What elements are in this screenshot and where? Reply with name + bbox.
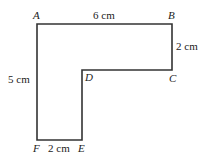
vertex-label-f: F [32,142,40,154]
vertex-label-d: D [84,71,93,83]
l-shape-diagram: A B C D E F 6 cm 2 cm 5 cm 2 cm [0,0,210,158]
vertex-label-c: C [169,72,177,84]
vertex-label-a: A [32,9,40,21]
measurement-bc: 2 cm [176,40,198,52]
l-shape-outline [37,24,172,140]
measurement-ab: 6 cm [93,9,115,21]
measurement-fe: 2 cm [48,142,70,154]
measurement-af: 5 cm [8,73,30,85]
vertex-label-e: E [77,142,85,154]
vertex-label-b: B [168,9,175,21]
